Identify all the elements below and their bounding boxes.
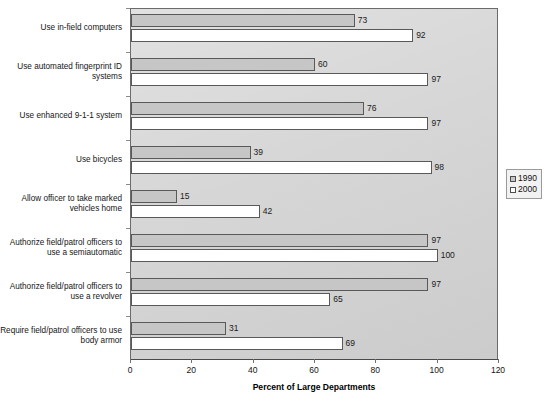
y-axis-tick [126, 8, 130, 9]
bar-2000[interactable] [131, 293, 330, 306]
legend: 1990 2000 [506, 169, 542, 199]
category-label-line: Require field/patrol officers to use [0, 326, 122, 337]
legend-swatch-2000-icon [510, 187, 516, 193]
bar-value-label: 15 [180, 192, 189, 201]
category-label-line: Authorize field/patrol officers to [0, 238, 122, 249]
category-label-line: vehicles home [0, 204, 122, 215]
bar-2000[interactable] [131, 249, 438, 262]
category-label-line: Use enhanced 9-1-1 system [0, 111, 122, 122]
bar-1990[interactable] [131, 58, 315, 71]
bar-group: 7697 [131, 97, 497, 141]
y-axis-tick [126, 140, 130, 141]
bar-value-label: 98 [435, 163, 444, 172]
x-axis-tick-label: 0 [128, 365, 133, 375]
y-axis-tick [126, 52, 130, 53]
bar-1990[interactable] [131, 102, 364, 115]
legend-swatch-1990-icon [510, 176, 516, 182]
x-axis-tick-label: 60 [309, 365, 318, 375]
bar-value-label: 39 [254, 148, 263, 157]
bar-value-label: 65 [333, 295, 342, 304]
y-axis-tick [126, 184, 130, 185]
bar-group: 3998 [131, 141, 497, 185]
category-label-line: use a revolver [0, 292, 122, 303]
category-label-line: systems [0, 72, 122, 83]
bar-2000[interactable] [131, 205, 260, 218]
x-axis-tick-label: 20 [187, 365, 196, 375]
category-label: Require field/patrol officers to usebody… [0, 326, 122, 347]
bar-group: 6097 [131, 53, 497, 97]
x-axis-tick-label: 80 [371, 365, 380, 375]
bar-group: 3169 [131, 317, 497, 361]
bar-value-label: 97 [431, 280, 440, 289]
x-axis-tick-label: 40 [248, 365, 257, 375]
bar-value-label: 97 [431, 119, 440, 128]
bar-rows-container: 739260977697399815429710097653169 [131, 9, 497, 359]
category-label-line: Allow officer to take marked [0, 194, 122, 205]
category-label-line: use a semiautomatic [0, 248, 122, 259]
bar-1990[interactable] [131, 14, 355, 27]
bar-value-label: 76 [367, 104, 376, 113]
category-label-line: Use bicycles [0, 155, 122, 166]
bar-1990[interactable] [131, 322, 226, 335]
y-axis-tick [126, 96, 130, 97]
x-axis-tick-label: 120 [491, 365, 505, 375]
category-label-line: Use in-field computers [0, 23, 122, 34]
bar-1990[interactable] [131, 146, 251, 159]
bar-group: 9765 [131, 273, 497, 317]
category-label: Use bicycles [0, 155, 122, 166]
plot-area: 739260977697399815429710097653169 [130, 8, 498, 360]
x-axis-tick-label: 100 [430, 365, 444, 375]
category-label-line: Authorize field/patrol officers to [0, 282, 122, 293]
category-label: Use in-field computers [0, 23, 122, 34]
bar-2000[interactable] [131, 337, 343, 350]
chart-root: 739260977697399815429710097653169 Use in… [0, 0, 554, 403]
bar-value-label: 73 [358, 16, 367, 25]
legend-label-2000: 2000 [518, 185, 537, 194]
bar-value-label: 42 [263, 207, 272, 216]
bar-2000[interactable] [131, 29, 413, 42]
category-label: Use enhanced 9-1-1 system [0, 111, 122, 122]
legend-item-1990[interactable]: 1990 [510, 173, 537, 184]
bar-2000[interactable] [131, 73, 428, 86]
x-axis-title: Percent of Large Departments [130, 382, 498, 392]
legend-label-1990: 1990 [518, 174, 537, 183]
bar-1990[interactable] [131, 190, 177, 203]
bar-value-label: 69 [346, 339, 355, 348]
bar-1990[interactable] [131, 278, 428, 291]
category-label: Authorize field/patrol officers touse a … [0, 282, 122, 303]
category-label: Allow officer to take markedvehicles hom… [0, 194, 122, 215]
category-labels: Use in-field computersUse automated fing… [0, 8, 126, 360]
bar-group: 7392 [131, 9, 497, 53]
bar-2000[interactable] [131, 161, 432, 174]
y-axis-tick [126, 272, 130, 273]
bar-value-label: 92 [416, 31, 425, 40]
category-label: Use automated fingerprint IDsystems [0, 62, 122, 83]
bar-group: 1542 [131, 185, 497, 229]
category-label-line: Use automated fingerprint ID [0, 62, 122, 73]
bar-value-label: 100 [441, 251, 455, 260]
legend-item-2000[interactable]: 2000 [510, 184, 537, 195]
bar-group: 97100 [131, 229, 497, 273]
bar-value-label: 31 [229, 324, 238, 333]
x-axis-tick [498, 359, 499, 363]
y-axis-tick [126, 316, 130, 317]
bar-value-label: 97 [431, 75, 440, 84]
category-label: Authorize field/patrol officers touse a … [0, 238, 122, 259]
category-label-line: body armor [0, 336, 122, 347]
bar-2000[interactable] [131, 117, 428, 130]
bar-value-label: 97 [431, 236, 440, 245]
bar-1990[interactable] [131, 234, 428, 247]
y-axis-tick [126, 228, 130, 229]
bar-value-label: 60 [318, 60, 327, 69]
